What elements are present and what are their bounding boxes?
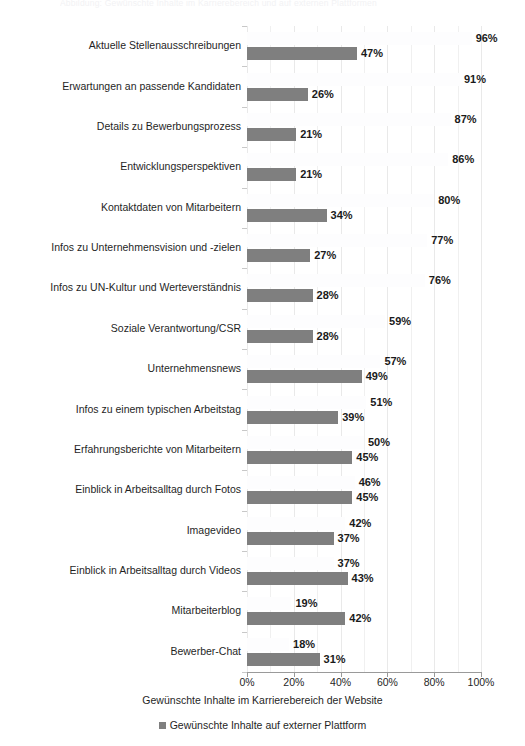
bar-value-label: 86% [452,153,474,166]
bar-series-b [247,612,345,625]
y-tick [242,632,247,633]
y-tick [242,551,247,552]
bar-value-label: 37% [338,557,360,570]
category-label: Infos zu einem typischen Arbeitstag [0,404,241,415]
bar-value-label: 59% [389,315,411,328]
y-tick [242,591,247,592]
legend-item[interactable]: Gewünschte Inhalte auf externer Plattfor… [159,719,367,731]
bar-value-label: 87% [455,113,477,126]
x-axis-tick-labels: 0%20%40%60%80%100% [247,676,481,690]
bar-value-label: 34% [331,209,353,222]
bar-series-a [247,194,434,207]
bar-series-b [247,289,313,302]
bar-value-label: 45% [356,491,378,504]
bar-value-label: 96% [476,32,498,45]
x-tick-label: 40% [330,676,351,688]
category-label: Mitarbeiterblog [0,605,241,616]
legend-label: Gewünschte Inhalte auf externer Plattfor… [170,719,367,731]
y-tick [242,107,247,108]
bar-value-label: 49% [366,370,388,383]
bar-value-label: 42% [349,517,371,530]
bar-series-a [247,153,448,166]
bar-series-b [247,209,327,222]
bar-value-label: 21% [300,128,322,141]
category-label: Details zu Bewerbungsprozess [0,121,241,132]
category-label: Aktuelle Stellenausschreibungen [0,40,241,51]
bar-value-label: 26% [312,88,334,101]
bar-value-label: 47% [361,47,383,60]
bar-value-label: 45% [356,451,378,464]
y-tick [242,430,247,431]
bar-series-b [247,249,310,262]
bar-series-b [247,47,357,60]
bar-series-b [247,330,313,343]
y-tick [242,26,247,27]
bar-value-label: 39% [342,411,364,424]
bar-value-label: 77% [431,234,453,247]
bar-series-b [247,572,348,585]
chart-legend: Gewünschte Inhalte auf externer Plattfor… [0,719,525,731]
bar-value-label: 80% [438,194,460,207]
bar-series-b [247,411,338,424]
bar-value-label: 31% [324,653,346,666]
bar-series-a [247,476,355,489]
bar-series-a [247,234,427,247]
bar-chart: Abbildung: Gewünschte Inhalte im Karrier… [0,0,525,746]
bar-series-b [247,451,352,464]
bar-series-a [247,638,289,651]
category-label: Unternehmensnews [0,363,241,374]
bar-value-label: 37% [338,532,360,545]
y-tick [242,66,247,67]
bar-series-b [247,370,362,383]
bar-series-b [247,532,334,545]
y-tick [242,470,247,471]
bar-value-label: 46% [359,476,381,489]
bar-series-a [247,396,366,409]
category-label: Einblick in Arbeitsalltag durch Videos [0,565,241,576]
bar-series-a [247,517,345,530]
bar-value-label: 43% [352,572,374,585]
bar-value-label: 57% [384,355,406,368]
bar-value-label: 27% [314,249,336,262]
x-tick-label: 100% [468,676,495,688]
x-axis-line [247,672,481,673]
x-tick-label: 60% [377,676,398,688]
gridline [481,26,482,672]
bar-value-label: 51% [370,396,392,409]
bar-value-label: 28% [317,330,339,343]
bar-value-label: 91% [464,73,486,86]
x-tick-label: 20% [283,676,304,688]
top-caption: Abbildung: Gewünschte Inhalte im Karrier… [60,0,480,10]
bar-series-a [247,315,385,328]
category-label: Infos zu UN-Kultur und Werteverständnis [0,282,241,293]
plot-area: 96%47%91%26%87%21%86%21%80%34%77%27%76%2… [247,26,481,672]
bar-series-a [247,597,291,610]
bar-series-b [247,168,296,181]
bar-series-a [247,32,472,45]
y-tick [242,188,247,189]
bar-series-a [247,436,364,449]
x-tick-label: 0% [239,676,254,688]
category-label: Erwartungen an passende Kandidaten [0,81,241,92]
bar-value-label: 50% [368,436,390,449]
y-tick [242,309,247,310]
y-tick [242,268,247,269]
bar-series-b [247,128,296,141]
bar-value-label: 19% [295,597,317,610]
bar-value-label: 28% [317,289,339,302]
category-label: Entwicklungsperspektiven [0,161,241,172]
category-label: Soziale Verantwortung/CSR [0,323,241,334]
x-axis-title: Gewünschte Inhalte im Karrierebereich de… [0,694,525,706]
category-label: Erfahrungsberichte von Mitarbeitern [0,444,241,455]
bar-series-b [247,491,352,504]
category-label: Kontaktdaten von Mitarbeitern [0,202,241,213]
bar-series-b [247,88,308,101]
bar-series-b [247,653,320,666]
bar-series-a [247,274,425,287]
y-tick [242,511,247,512]
bar-value-label: 42% [349,612,371,625]
legend-swatch-icon [159,722,166,729]
y-tick [242,349,247,350]
y-tick [242,147,247,148]
bar-series-a [247,113,451,126]
